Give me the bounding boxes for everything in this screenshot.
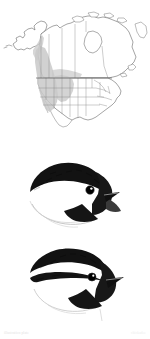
caption-strip: illustration plate chickadee [0, 327, 150, 339]
range-map-panel [0, 4, 150, 144]
caption-left: illustration plate [4, 331, 29, 336]
mountain-chickadee-head [0, 243, 150, 327]
north-america-range-map [0, 4, 150, 144]
black-capped-chickadee-head [0, 152, 150, 240]
caption-right: chickadee [131, 331, 146, 336]
black-capped-chickadee-illustration [0, 152, 150, 240]
landmass-outline [4, 12, 147, 127]
mountain-chickadee-illustration [0, 243, 150, 327]
plate-page: illustration plate chickadee [0, 0, 150, 339]
